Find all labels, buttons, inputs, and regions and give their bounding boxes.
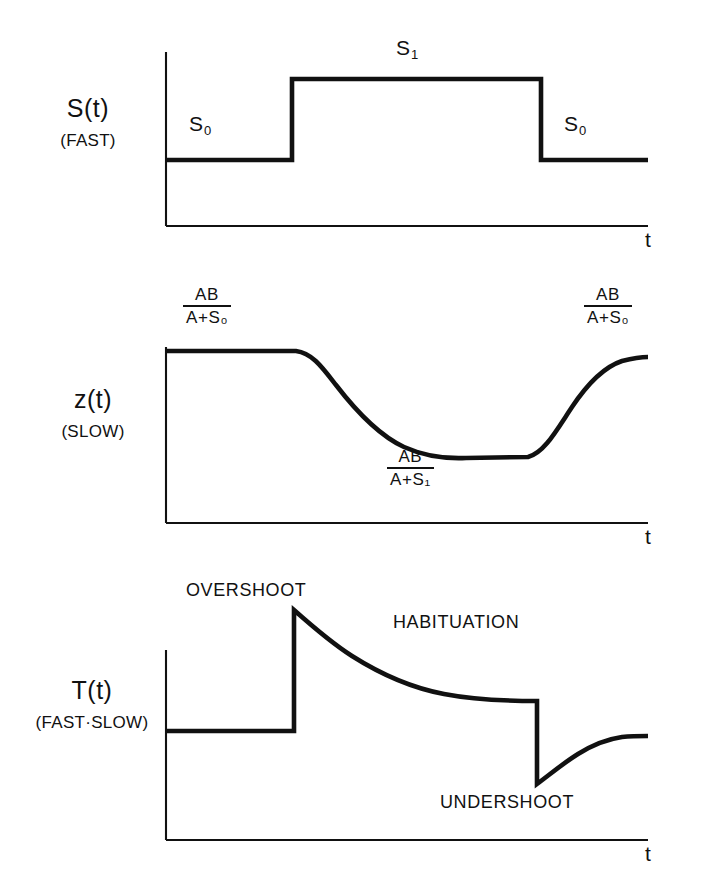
fraction-left-numerator: AB — [183, 285, 231, 307]
xaxis-label-z-of-t: t — [645, 525, 651, 549]
fraction-mid-denominator: A+S₁ — [387, 469, 434, 489]
axis-label-speed-t: (FAST·SLOW) — [6, 714, 178, 731]
gated-dipole-figure: S(t) (FAST) S0 S1 S0 t z(t) (SLOW) AB A+… — [0, 0, 706, 882]
annotation-s0-right: S0 — [564, 112, 587, 136]
xaxis-label-s-of-t: t — [645, 228, 651, 252]
annotation-s0-left-base: S — [189, 112, 204, 135]
curve-t-of-t — [166, 610, 648, 784]
panel-s-of-t: S(t) (FAST) S0 S1 S0 t — [0, 0, 706, 262]
annotation-habituation: HABITUATION — [393, 612, 519, 633]
annotation-overshoot: OVERSHOOT — [186, 580, 306, 601]
annotation-s0-right-base: S — [564, 112, 579, 135]
annotation-s1-base: S — [396, 36, 411, 59]
annotation-fraction-mid: AB A+S₁ — [387, 447, 434, 489]
xaxis-label-t-of-t: t — [645, 842, 651, 866]
axis-label-speed-s: (FAST) — [18, 132, 158, 149]
fraction-right-numerator: AB — [584, 285, 632, 307]
curve-z-of-t — [166, 351, 648, 458]
annotation-s0-left: S0 — [189, 112, 212, 136]
annotation-s1-sub: 1 — [411, 47, 419, 62]
fraction-right-denominator: A+S₀ — [584, 307, 632, 327]
annotation-s0-left-sub: 0 — [204, 123, 212, 138]
panel-z-of-t: z(t) (SLOW) AB A+S₀ AB A+S₁ AB A+S₀ t — [0, 275, 706, 565]
axis-label-function-t: T(t) — [6, 678, 178, 703]
axis-label-z-of-t: z(t) (SLOW) — [18, 387, 168, 440]
axis-label-function-z: z(t) — [18, 387, 168, 412]
axis-label-s-of-t: S(t) (FAST) — [18, 96, 158, 149]
annotation-fraction-left: AB A+S₀ — [183, 285, 231, 327]
annotation-fraction-right: AB A+S₀ — [584, 285, 632, 327]
annotation-undershoot: UNDERSHOOT — [440, 792, 574, 813]
fraction-mid-numerator: AB — [387, 447, 434, 469]
annotation-s0-right-sub: 0 — [579, 123, 587, 138]
panel-t-of-t: T(t) (FAST·SLOW) OVERSHOOT HABITUATION U… — [0, 570, 706, 882]
annotation-s1: S1 — [396, 36, 419, 60]
axis-label-speed-z: (SLOW) — [18, 423, 168, 440]
fraction-left-denominator: A+S₀ — [183, 307, 231, 327]
axis-label-function-s: S(t) — [18, 96, 158, 121]
axis-label-t-of-t: T(t) (FAST·SLOW) — [6, 678, 178, 731]
